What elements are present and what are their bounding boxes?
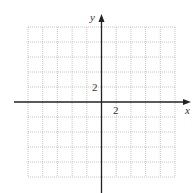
x-axis xyxy=(14,99,191,105)
x-axis-label: x xyxy=(184,104,190,116)
coordinate-plane: y x 2 2 xyxy=(0,0,196,193)
y-axis-label: y xyxy=(89,11,95,23)
y-tick-label: 2 xyxy=(92,81,98,93)
y-axis xyxy=(99,14,105,193)
x-tick-label: 2 xyxy=(113,104,119,116)
y-axis-arrow-icon xyxy=(99,14,105,22)
